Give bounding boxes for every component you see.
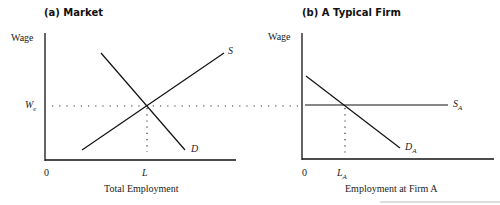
panel-b-qty-label: LA [337, 167, 347, 181]
panel-b-y-axis-label: Wage [268, 31, 291, 42]
panel-a-demand-curve [101, 53, 185, 150]
panel-a-supply-label: S [228, 45, 233, 56]
panel-a-y-axis-label: Wage [11, 32, 34, 43]
panel-a-x-axis-label: Total Employment [104, 183, 179, 194]
panel-b-supply-label: SA [453, 98, 462, 112]
panel-b-origin: 0 [302, 167, 307, 178]
panel-a-wage-label: We [25, 99, 36, 113]
panel-b-demand-label: DA [405, 141, 417, 155]
diagram-graphics [0, 0, 500, 205]
panel-b-demand-curve [306, 76, 400, 148]
panel-a-supply-curve [82, 53, 224, 150]
panel-b-x-axis-label: Employment at Firm A [345, 183, 438, 194]
panel-a-demand-label: D [191, 143, 198, 154]
panel-a-origin: 0 [44, 167, 49, 178]
panel-a-qty-label: L [142, 167, 148, 178]
